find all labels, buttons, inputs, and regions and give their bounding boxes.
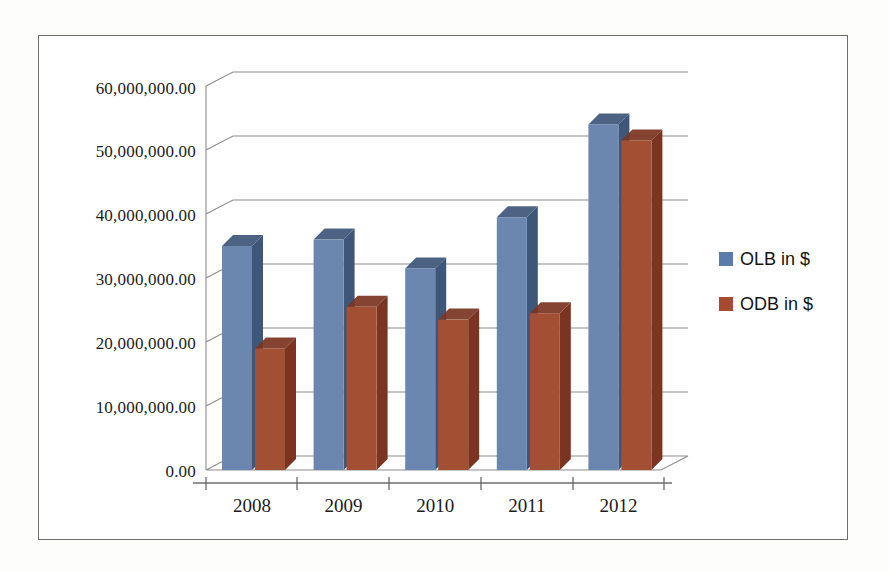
bar-odbin-2008 (255, 337, 296, 470)
x-axis-label-2008: 2008 (233, 495, 271, 516)
bar-chart: 60,000,000.00 50,000,000.00 40,000,000.0… (0, 0, 889, 572)
y-tick-label-50m: 50,000,000.00 (96, 142, 196, 161)
bar-side-face (651, 129, 662, 470)
bar-front-face (255, 348, 285, 470)
bar-odbin-2010 (438, 309, 479, 470)
x-axis-label-2009: 2009 (325, 495, 363, 516)
bar-front-face (588, 124, 618, 470)
legend-swatch-olb-icon (719, 252, 733, 266)
bar-odbin-2011 (530, 302, 571, 470)
y-tick-label-30m: 30,000,000.00 (96, 270, 196, 289)
x-axis (193, 477, 672, 490)
y-tick-label-60m: 60,000,000.00 (96, 79, 196, 98)
chart-screenshot: 60,000,000.00 50,000,000.00 40,000,000.0… (0, 0, 889, 572)
bar-front-face (314, 240, 344, 470)
x-axis-category-labels: 20082009201020112012 (233, 495, 637, 516)
y-axis-tick-labels: 60,000,000.00 50,000,000.00 40,000,000.0… (96, 79, 196, 481)
x-axis-label-2010: 2010 (416, 495, 454, 516)
y-tick-label-40m: 40,000,000.00 (96, 206, 196, 225)
bar-side-face (560, 302, 571, 470)
bar-group (222, 113, 662, 470)
x-axis-label-2012: 2012 (599, 495, 637, 516)
bar-front-face (222, 246, 252, 470)
bar-front-face (347, 307, 377, 470)
y-tick-label-20m: 20,000,000.00 (96, 334, 196, 353)
legend: OLB in $ ODB in $ (719, 249, 813, 314)
x-axis-label-2011: 2011 (508, 495, 545, 516)
bar-side-face (468, 309, 479, 470)
bar-side-face (377, 296, 388, 470)
gridline-60m (206, 72, 688, 86)
legend-label-odb: ODB in $ (740, 294, 813, 314)
bar-side-face (285, 337, 296, 470)
bar-front-face (497, 217, 527, 470)
bar-front-face (530, 313, 560, 470)
legend-swatch-odb-icon (719, 297, 733, 311)
bar-front-face (438, 320, 468, 470)
y-tick-label-0: 0.00 (165, 462, 196, 481)
bar-odbin-2012 (621, 129, 662, 470)
y-tick-label-10m: 10,000,000.00 (96, 398, 196, 417)
bar-front-face (621, 140, 651, 470)
bar-front-face (405, 268, 435, 470)
legend-label-olb: OLB in $ (740, 249, 810, 269)
bar-odbin-2009 (347, 296, 388, 470)
